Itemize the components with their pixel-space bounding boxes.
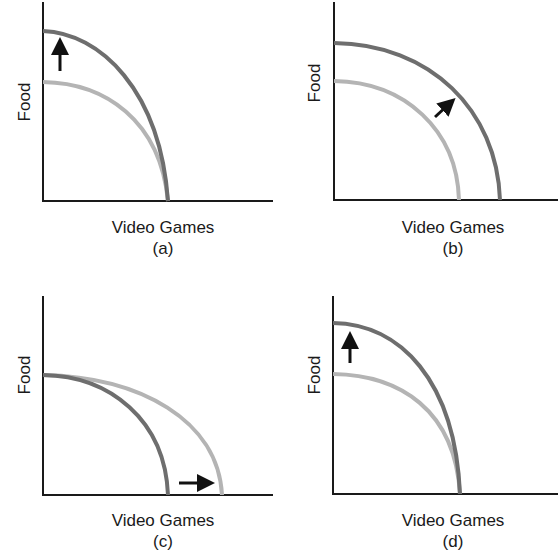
light-curve: [43, 82, 168, 201]
dark-curve: [43, 31, 168, 201]
x-axis-label: Video Games: [112, 511, 215, 530]
dark-curve: [43, 375, 168, 495]
y-axis-label: Food: [305, 64, 324, 103]
panel-caption: (d): [443, 532, 464, 550]
panel-c: Food Video Games (c): [15, 296, 273, 550]
y-axis-label: Food: [15, 356, 34, 395]
y-axis-label: Food: [15, 83, 34, 122]
panel-b: Food Video Games (b): [305, 2, 558, 258]
panel-caption: (c): [153, 532, 173, 550]
x-axis-label: Video Games: [402, 218, 505, 237]
light-curve: [333, 374, 460, 494]
panel-caption: (b): [443, 239, 464, 258]
arrow-outward-icon: [435, 104, 449, 117]
dark-curve: [333, 323, 460, 494]
x-axis-label: Video Games: [402, 511, 505, 530]
ppf-figure: Food Video Games (a) Food Video Games (b…: [0, 0, 558, 550]
x-axis-label: Video Games: [112, 218, 215, 237]
panel-a: Food Video Games (a): [15, 2, 273, 258]
light-curve: [43, 375, 222, 495]
panel-caption: (a): [153, 239, 174, 258]
dark-curve: [334, 43, 500, 200]
y-axis-label: Food: [305, 356, 324, 395]
light-curve: [334, 81, 459, 200]
panel-d: Food Video Games (d): [305, 296, 558, 550]
